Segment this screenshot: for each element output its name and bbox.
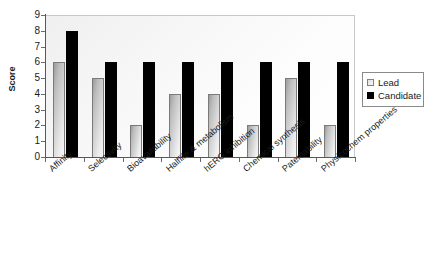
x-axis-tick-mark xyxy=(355,158,356,162)
legend-label: Lead xyxy=(378,77,399,88)
y-axis-tick-mark xyxy=(41,141,45,142)
y-axis-tick-mark xyxy=(41,110,45,111)
bar-chart: Score 9876543210 AffinitySelectivityBioa… xyxy=(0,0,436,260)
x-axis-category-label: Affinity xyxy=(47,149,74,174)
y-axis-tick-mark xyxy=(41,78,45,79)
legend-item: Lead xyxy=(367,76,420,89)
x-axis-category-label: Chemical synthesis xyxy=(241,116,307,173)
x-axis-tick-mark xyxy=(278,158,279,162)
legend-label: Candidate xyxy=(378,90,421,101)
chart-legend: LeadCandidate xyxy=(362,72,424,107)
y-axis-tick-mark xyxy=(41,47,45,48)
y-axis-tick-mark xyxy=(41,31,45,32)
x-axis-category-label: Selectivity xyxy=(86,140,123,174)
x-axis-category-label: Halflife & metabolism xyxy=(164,112,235,174)
x-axis-category-labels: AffinitySelectivityBioavailabilityHalfli… xyxy=(0,0,436,260)
x-axis-tick-mark xyxy=(123,158,124,162)
legend-item: Candidate xyxy=(367,89,420,102)
candidate-swatch xyxy=(367,92,374,99)
lead-swatch xyxy=(367,79,374,86)
x-axis-tick-mark xyxy=(316,158,317,162)
x-axis-tick-mark xyxy=(84,158,85,162)
x-axis-tick-mark xyxy=(45,158,46,162)
y-axis-tick-mark xyxy=(41,15,45,16)
y-axis-tick-mark xyxy=(41,62,45,63)
x-axis-tick-mark xyxy=(161,158,162,162)
y-axis-tick-mark xyxy=(41,94,45,95)
x-axis-category-label: Physicochem properties xyxy=(319,104,399,173)
x-axis-tick-mark xyxy=(200,158,201,162)
x-axis-tick-mark xyxy=(239,158,240,162)
y-axis-tick-mark xyxy=(41,125,45,126)
